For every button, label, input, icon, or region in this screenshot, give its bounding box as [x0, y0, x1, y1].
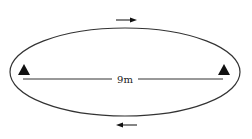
- left-cone-icon: [18, 64, 30, 75]
- distance-label: 9m: [117, 74, 133, 85]
- arrow-right-icon: [116, 18, 137, 23]
- oval-track-diagram: 9m: [0, 0, 252, 139]
- oval-track: [10, 28, 240, 116]
- arrow-left-icon: [116, 123, 137, 128]
- right-cone-icon: [218, 64, 230, 75]
- diagram-svg: 9m: [0, 0, 252, 139]
